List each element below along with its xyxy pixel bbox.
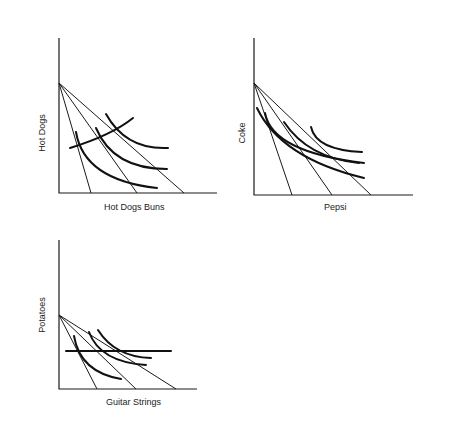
y-axis-label-potatoes: Potatoes xyxy=(37,295,47,335)
budget-line xyxy=(254,83,332,195)
budget-line xyxy=(254,83,371,195)
panel-potatoes xyxy=(59,240,197,389)
axes xyxy=(59,38,217,193)
panel-coke xyxy=(254,38,413,195)
indifference-curve xyxy=(311,127,362,152)
axes xyxy=(59,240,197,389)
budget-line xyxy=(254,83,292,195)
y-axis-label-coke: Coke xyxy=(237,113,247,153)
x-axis-label-pepsi: Pepsi xyxy=(324,202,347,212)
indifference-curve xyxy=(257,108,364,178)
indifference-curve xyxy=(76,132,157,188)
panel-hot-dogs xyxy=(59,38,217,193)
x-axis-label-guitar-strings: Guitar Strings xyxy=(106,397,161,407)
budget-line xyxy=(59,83,91,193)
indifference-curve xyxy=(106,114,168,148)
x-axis-label-hot-dogs-buns: Hot Dogs Buns xyxy=(104,202,165,212)
y-axis-label-hot-dogs: Hot Dogs xyxy=(37,113,47,153)
indifference-curve-diagrams xyxy=(0,0,467,425)
